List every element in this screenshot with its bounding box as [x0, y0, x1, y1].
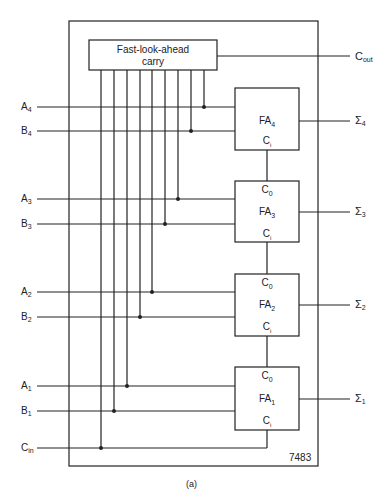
sum1-label: Σ1	[355, 392, 366, 405]
fa4-name: FA4	[235, 115, 299, 128]
fa3-ci: Ci	[235, 228, 299, 241]
carry-in-label: Cin	[21, 443, 34, 456]
input-b3-label: B3	[21, 219, 32, 232]
fa2-name: FA2	[235, 299, 299, 312]
chip-label: 7483	[289, 453, 311, 463]
fa2-c0: C0	[235, 277, 299, 290]
input-b4-label: B4	[21, 126, 32, 139]
sum3-label: Σ3	[355, 205, 366, 218]
sum2-label: Σ2	[355, 298, 366, 311]
input-b2-label: B2	[21, 312, 32, 325]
carry-block: Fast-look-ahead carry	[89, 44, 217, 68]
carry-out-label: Cout	[355, 50, 373, 63]
input-a3-label: A3	[21, 194, 32, 207]
sum4-label: Σ4	[355, 114, 366, 127]
input-a1-label: A1	[21, 381, 32, 394]
fa1-ci: Ci	[235, 415, 299, 428]
fa1-name: FA1	[235, 393, 299, 406]
circuit-wiring	[0, 0, 387, 495]
fa3-c0: C0	[235, 184, 299, 197]
input-a2-label: A2	[21, 287, 32, 300]
fa4-ci: Ci	[235, 135, 299, 148]
fa1-c0: C0	[235, 370, 299, 383]
figure-caption: (a)	[186, 479, 197, 489]
input-b1-label: B1	[21, 406, 32, 419]
carry-block-line1: Fast-look-ahead	[89, 44, 217, 56]
fa3-name: FA3	[235, 206, 299, 219]
input-a4-label: A4	[21, 102, 32, 115]
carry-block-line2: carry	[89, 56, 217, 68]
fa2-ci: Ci	[235, 321, 299, 334]
